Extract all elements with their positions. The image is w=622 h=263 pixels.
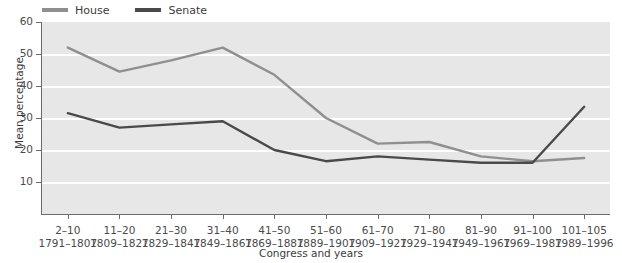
series-line-house: [68, 48, 584, 162]
series-line-senate: [68, 107, 584, 163]
line-chart: House Senate Mean percentage 10203040506…: [0, 0, 622, 263]
series-layer: [0, 0, 622, 263]
x-axis-title: Congress and years: [0, 247, 622, 259]
